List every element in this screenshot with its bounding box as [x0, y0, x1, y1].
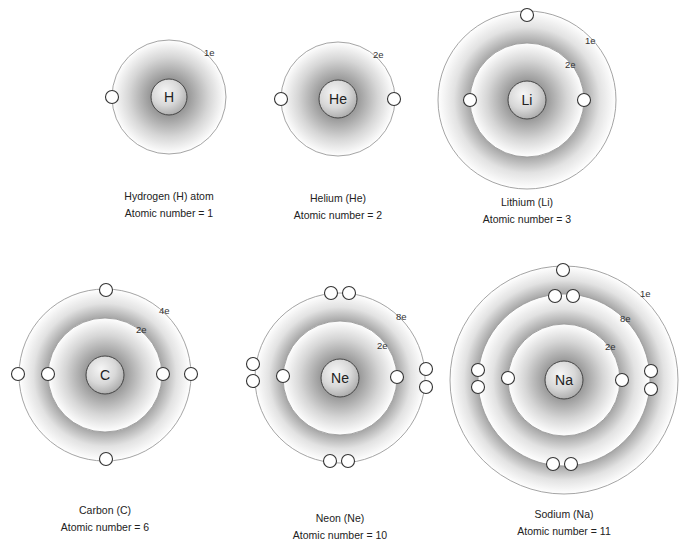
- electron-icon: [521, 9, 534, 22]
- electron-icon: [106, 91, 119, 104]
- atom-caption-carbon: Carbon (C) Atomic number = 6: [5, 502, 205, 536]
- electron-icon: [391, 371, 404, 384]
- electron-icon: [100, 453, 113, 466]
- atom-sodium: Na2e8e1e: [450, 264, 678, 495]
- electron-icon: [12, 368, 25, 381]
- element-symbol: C: [100, 367, 110, 383]
- atomic-number-label: Atomic number = 6: [5, 519, 205, 536]
- element-symbol: Na: [555, 372, 573, 388]
- electron-icon: [342, 455, 355, 468]
- shell-electron-count-label: 2e: [136, 324, 147, 335]
- electron-icon: [645, 383, 658, 396]
- atom-neon: Ne2e8e: [247, 287, 433, 468]
- shell-electron-count-label: 2e: [565, 59, 576, 70]
- electron-icon: [420, 363, 433, 376]
- atom-name-label: Lithium (Li): [427, 194, 627, 211]
- electron-icon: [557, 264, 570, 277]
- electron-icon: [247, 358, 260, 371]
- electron-icon: [420, 381, 433, 394]
- element-symbol: Li: [522, 92, 533, 108]
- shell-electron-count-label: 4e: [159, 305, 170, 316]
- electron-icon: [388, 93, 401, 106]
- electron-icon: [247, 375, 260, 388]
- electron-icon: [472, 381, 485, 394]
- electron-icon: [464, 94, 477, 107]
- atom-name-label: Helium (He): [238, 190, 438, 207]
- electron-icon: [645, 365, 658, 378]
- electron-icon: [567, 290, 580, 303]
- element-symbol: H: [164, 89, 174, 105]
- atomic-number-label: Atomic number = 2: [238, 207, 438, 224]
- atom-lithium: Li2e1e: [438, 9, 616, 190]
- electron-icon: [578, 94, 591, 107]
- electron-icon: [565, 458, 578, 471]
- electron-icon: [325, 287, 338, 300]
- shell-electron-count-label: 1e: [640, 288, 651, 299]
- shell-electron-count-label: 8e: [620, 313, 631, 324]
- atom-name-label: Neon (Ne): [240, 510, 440, 527]
- electron-icon: [275, 93, 288, 106]
- electron-icon: [616, 374, 629, 387]
- atom-name-label: Carbon (C): [5, 502, 205, 519]
- atom-name-label: Sodium (Na): [464, 506, 664, 523]
- shell-electron-count-label: 1e: [585, 35, 596, 46]
- atomic-number-label: Atomic number = 11: [464, 523, 664, 540]
- shell-electron-count-label: 8e: [396, 311, 407, 322]
- electron-icon: [343, 287, 356, 300]
- element-symbol: Ne: [331, 370, 349, 386]
- atom-hydrogen: H1e: [106, 40, 227, 154]
- electron-icon: [100, 284, 113, 297]
- element-symbol: He: [329, 91, 347, 107]
- atom-caption-sodium: Sodium (Na) Atomic number = 11: [464, 506, 664, 540]
- atom-caption-neon: Neon (Ne) Atomic number = 10: [240, 510, 440, 543]
- electron-icon: [277, 370, 290, 383]
- atom-carbon: C2e4e: [12, 284, 198, 466]
- electron-icon: [157, 368, 170, 381]
- atom-caption-lithium: Lithium (Li) Atomic number = 3: [427, 194, 627, 228]
- electron-icon: [472, 364, 485, 377]
- electron-icon: [502, 372, 515, 385]
- shell-electron-count-label: 2e: [605, 341, 616, 352]
- shell-electron-count-label: 2e: [373, 49, 384, 60]
- electron-icon: [547, 458, 560, 471]
- atom-helium: He2e: [275, 42, 401, 156]
- electron-icon: [185, 368, 198, 381]
- shell-electron-count-label: 1e: [204, 47, 215, 58]
- electron-icon: [549, 290, 562, 303]
- shell-electron-count-label: 2e: [377, 340, 388, 351]
- electron-icon: [324, 455, 337, 468]
- atom-caption-helium: Helium (He) Atomic number = 2: [238, 190, 438, 224]
- electron-icon: [42, 368, 55, 381]
- atomic-number-label: Atomic number = 10: [240, 527, 440, 543]
- atomic-number-label: Atomic number = 3: [427, 211, 627, 228]
- atoms-layer: H1eHe2eLi2e1eC2e4eNe2e8eNa2e8e1e: [12, 9, 679, 495]
